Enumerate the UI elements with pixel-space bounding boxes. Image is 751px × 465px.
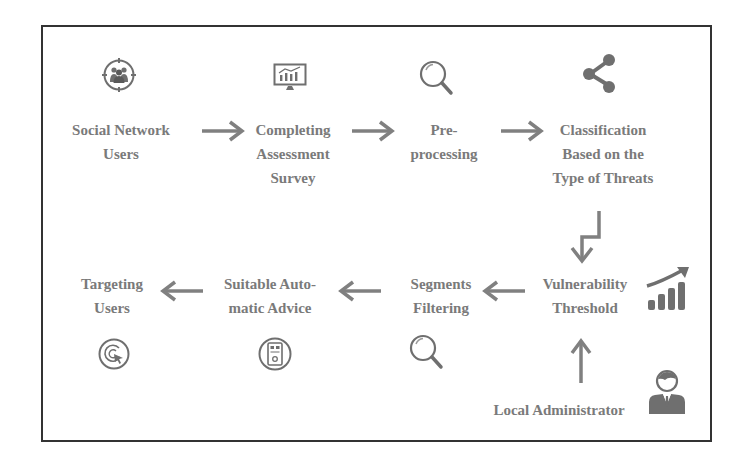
- node-local-administrator: Local Administrator: [480, 398, 638, 422]
- node-vulnerability-threshold: Vulnerability Threshold: [527, 272, 643, 320]
- target-cursor-icon: [97, 337, 131, 371]
- arrow-left-1: [482, 280, 526, 302]
- node-completing-assessment-survey: Completing Assessment Survey: [245, 118, 341, 190]
- arrow-right-2: [351, 120, 395, 142]
- share-icon: [580, 53, 620, 95]
- node-social-network-users: Social Network Users: [66, 118, 176, 166]
- arrow-elbow-down: [568, 208, 608, 264]
- node-targeting-users: Targeting Users: [70, 272, 154, 320]
- node-suitable-automatic-advice: Suitable Auto- matic Advice: [210, 272, 330, 320]
- arrow-right-1: [201, 120, 245, 142]
- monitor-chart-icon: [273, 63, 307, 93]
- arrow-left-3: [160, 280, 204, 302]
- growth-chart-icon: [645, 266, 693, 312]
- arrow-right-3: [500, 120, 544, 142]
- users-target-icon: [101, 57, 137, 93]
- node-classification: Classification Based on the Type of Thre…: [543, 118, 663, 190]
- arrow-left-2: [338, 280, 382, 302]
- node-segments-filtering: Segments Filtering: [399, 272, 483, 320]
- arrow-up: [570, 338, 592, 384]
- administrator-icon: [647, 368, 687, 416]
- node-pre-processing: Pre- processing: [402, 118, 486, 166]
- magnifier-icon: [408, 333, 448, 377]
- magnifier-icon: [418, 59, 458, 103]
- device-circle-icon: [257, 336, 293, 372]
